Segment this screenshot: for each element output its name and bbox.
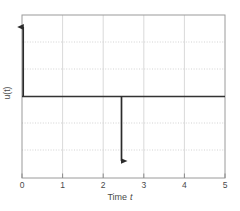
x-tick-label-3: 3 xyxy=(134,180,154,190)
x-axis-label-variable: t xyxy=(127,192,133,202)
impulse-signal-figure: 0 1 2 3 4 5 Timet u(t) xyxy=(0,0,240,211)
x-tick-label-5: 5 xyxy=(215,180,235,190)
x-tick-label-2: 2 xyxy=(93,180,113,190)
x-tick-label-4: 4 xyxy=(174,180,194,190)
plot-canvas xyxy=(0,0,240,211)
x-tick-label-0: 0 xyxy=(12,180,32,190)
x-axis-label-text: Time xyxy=(107,192,127,202)
y-axis-label: u(t) xyxy=(2,73,12,113)
x-tick-label-1: 1 xyxy=(53,180,73,190)
x-axis-label: Timet xyxy=(0,192,240,202)
